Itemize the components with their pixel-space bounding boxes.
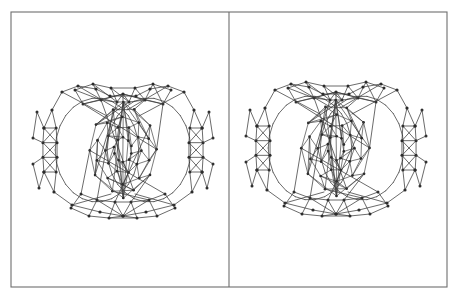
atom-node <box>305 81 308 84</box>
atom-node <box>200 170 203 173</box>
atom-node <box>335 195 338 198</box>
atom-node <box>360 137 363 140</box>
atom-node <box>148 87 151 90</box>
atom-node <box>50 108 53 111</box>
atom-node <box>340 137 343 140</box>
atom-node <box>329 125 332 128</box>
atom-node <box>113 152 116 155</box>
atom-node <box>263 106 266 109</box>
atom-node <box>110 87 113 90</box>
atom-node <box>335 113 338 116</box>
atom-node <box>96 139 99 142</box>
atom-node <box>94 87 97 90</box>
atom-node <box>347 85 350 88</box>
atom-node <box>320 160 323 163</box>
atom-node <box>190 190 193 193</box>
atom-node <box>287 87 290 90</box>
atom-node <box>357 208 360 211</box>
atom-node <box>335 135 338 138</box>
atom-node <box>152 83 155 86</box>
atom-node <box>301 213 304 216</box>
atom-node <box>309 158 312 161</box>
atom-node <box>360 157 363 160</box>
atom-node <box>369 213 372 216</box>
atom-node <box>117 159 120 162</box>
atom-node <box>121 214 124 217</box>
atom-node <box>128 158 131 161</box>
atom-node <box>187 141 190 144</box>
atom-node <box>405 106 408 109</box>
atom-node <box>400 154 403 157</box>
atom-node <box>130 152 133 155</box>
atom-node <box>148 159 151 162</box>
atom-node <box>128 126 131 129</box>
atom-node <box>329 136 332 139</box>
atom-node <box>42 170 45 173</box>
atom-node <box>339 157 342 160</box>
atom-node <box>321 92 324 95</box>
atom-node <box>122 197 125 200</box>
atom-node <box>403 188 406 191</box>
atom-node <box>116 126 119 129</box>
atom-node <box>361 85 364 88</box>
atom-node <box>269 139 272 142</box>
atom-node <box>311 208 314 211</box>
atom-node <box>108 94 111 97</box>
atom-node <box>342 150 345 153</box>
atom-node <box>350 120 353 123</box>
atom-node <box>106 177 109 180</box>
atom-node <box>130 145 133 148</box>
atom-node <box>56 156 59 159</box>
atom-node <box>134 87 137 90</box>
atom-node <box>70 207 73 210</box>
atom-node <box>330 156 333 159</box>
atom-node <box>365 81 368 84</box>
atom-node <box>413 124 416 127</box>
atom-node <box>74 89 77 92</box>
atom-node <box>343 143 346 146</box>
atom-node <box>327 150 330 153</box>
atom-node <box>98 210 101 213</box>
atom-node <box>255 124 258 127</box>
atom-node <box>122 136 125 139</box>
atom-node <box>96 159 99 162</box>
atom-node <box>319 175 322 178</box>
atom-node <box>106 121 109 124</box>
atom-node <box>255 168 258 171</box>
atom-node <box>387 205 390 208</box>
atom-node <box>200 126 203 129</box>
atom-node <box>127 139 130 142</box>
atom-node <box>170 89 173 92</box>
stereo-figure <box>0 0 458 298</box>
atom-node <box>330 168 333 171</box>
atom-node <box>121 115 124 118</box>
atom-node <box>117 138 120 141</box>
atom-node <box>283 205 286 208</box>
atom-node <box>187 156 190 159</box>
atom-node <box>92 83 95 86</box>
stereo-pair-canvas <box>0 0 458 298</box>
atom-node <box>307 85 310 88</box>
atom-node <box>400 139 403 142</box>
atom-node <box>413 168 416 171</box>
atom-node <box>113 146 116 149</box>
atom-node <box>52 190 55 193</box>
atom-node <box>269 154 272 157</box>
atom-node <box>174 207 177 210</box>
atom-node <box>156 215 159 218</box>
atom-node <box>138 121 141 124</box>
atom-node <box>134 94 137 97</box>
atom-node <box>334 212 337 215</box>
atom-node <box>144 210 147 213</box>
atom-node <box>383 87 386 90</box>
atom-node <box>265 188 268 191</box>
atom-node <box>56 141 59 144</box>
atom-node <box>327 143 330 146</box>
atom-node <box>323 85 326 88</box>
atom-node <box>348 160 351 163</box>
atom-node <box>140 149 143 152</box>
atom-node <box>353 147 356 150</box>
atom-node <box>42 126 45 129</box>
atom-node <box>341 124 344 127</box>
atom-node <box>116 170 119 173</box>
